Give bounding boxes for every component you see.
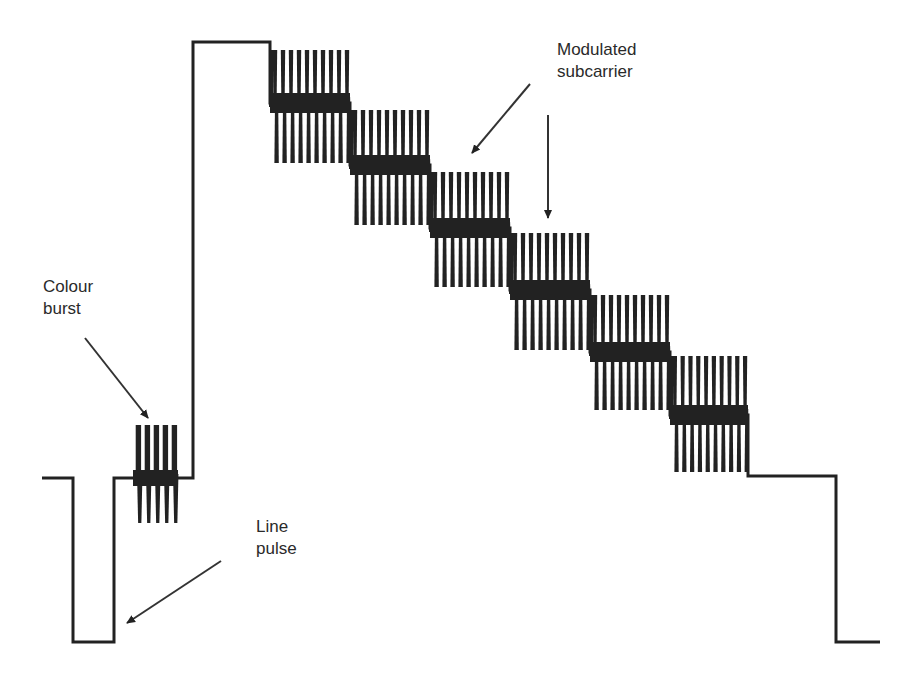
modulated-subcarrier-label: Modulatedsubcarrier <box>557 39 636 83</box>
modulated-subcarrier-label-line: subcarrier <box>557 61 636 83</box>
line-pulse-label-line: Line <box>256 516 297 538</box>
subcarrier-step-6 <box>669 356 749 472</box>
subcarrier-arrow-diagonal <box>472 84 530 153</box>
video-waveform-diagram <box>0 0 911 683</box>
subcarrier-step-1 <box>269 50 351 163</box>
line-pulse-label-line: pulse <box>256 538 297 560</box>
colour-burst-signal <box>133 425 178 523</box>
subcarrier-step-4 <box>509 233 591 350</box>
colour-burst-label-line: Colour <box>43 276 93 298</box>
line-pulse-arrow <box>127 561 221 623</box>
colour-burst-label: Colourburst <box>43 276 93 320</box>
subcarrier-step-2 <box>349 110 431 225</box>
subcarrier-step-5 <box>589 295 671 410</box>
annotation-arrows <box>85 84 548 623</box>
waveform-line <box>42 42 880 642</box>
colour-burst-label-line: burst <box>43 298 93 320</box>
line-pulse-label: Linepulse <box>256 516 297 560</box>
colour-burst-arrow <box>85 338 148 418</box>
modulated-subcarrier-bursts <box>133 50 749 523</box>
subcarrier-step-3 <box>429 172 511 287</box>
modulated-subcarrier-label-line: Modulated <box>557 39 636 61</box>
waveform-trace <box>42 42 880 642</box>
